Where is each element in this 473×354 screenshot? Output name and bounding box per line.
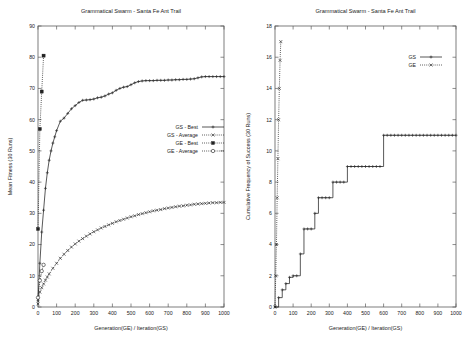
marker-plus xyxy=(182,78,185,81)
marker-cross xyxy=(103,225,106,228)
marker-plus xyxy=(212,126,215,129)
marker-plus xyxy=(144,79,147,82)
y-tick-label: 10 xyxy=(266,148,272,154)
marker-plus xyxy=(353,165,356,168)
marker-circle xyxy=(36,296,39,299)
marker-plus xyxy=(200,75,203,78)
marker-plus xyxy=(371,165,374,168)
marker-circle xyxy=(40,269,43,272)
figure-container: Grammatical Swarm - Santa Fe Ant Trail01… xyxy=(0,0,473,354)
x-tick-label: 200 xyxy=(307,310,316,316)
marker-plus xyxy=(411,134,414,137)
marker-plus xyxy=(426,134,429,137)
marker-plus xyxy=(440,134,443,137)
series-right-0 xyxy=(274,134,458,309)
y-tick-label: 16 xyxy=(266,54,272,60)
marker-plus xyxy=(422,134,425,137)
marker-cross xyxy=(170,206,173,209)
marker-cross xyxy=(167,207,170,210)
marker-plus xyxy=(447,134,450,137)
marker-plus xyxy=(100,96,103,99)
y-tick-label: 14 xyxy=(266,85,272,91)
x-tick-label: 300 xyxy=(89,310,98,316)
marker-cross xyxy=(40,286,43,289)
y-tick-label: 90 xyxy=(29,23,35,29)
marker-plus xyxy=(375,165,378,168)
marker-cross xyxy=(130,215,133,218)
x-tick-label: 900 xyxy=(434,310,443,316)
marker-cross xyxy=(42,282,45,285)
marker-cross xyxy=(107,223,110,226)
marker-plus xyxy=(360,165,363,168)
marker-cross xyxy=(51,267,54,270)
chart-panel-right: Grammatical Swarm - Santa Fe Ant Trail02… xyxy=(245,8,462,331)
marker-cross xyxy=(126,217,129,220)
x-tick-label: 900 xyxy=(201,310,210,316)
y-tick-label: 70 xyxy=(29,85,35,91)
legend-label: GE xyxy=(409,62,417,68)
marker-plus xyxy=(42,209,45,212)
marker-plus xyxy=(204,75,207,78)
marker-cross xyxy=(185,204,188,207)
marker-plus xyxy=(40,231,43,234)
marker-plus xyxy=(163,79,166,82)
marker-cross xyxy=(59,257,62,260)
marker-cross xyxy=(279,40,282,43)
marker-cross xyxy=(48,272,51,275)
legend-label: GS - Average xyxy=(167,132,198,138)
marker-plus xyxy=(44,187,47,190)
marker-plus xyxy=(444,134,447,137)
marker-circle xyxy=(38,279,41,282)
marker-plus xyxy=(159,79,162,82)
marker-plus xyxy=(288,276,291,279)
y-tick-label: 40 xyxy=(29,179,35,185)
marker-plus xyxy=(331,181,334,184)
marker-plus xyxy=(284,282,287,285)
marker-plus xyxy=(317,196,320,199)
chart-title-right: Grammatical Swarm - Santa Fe Ant Trail xyxy=(315,8,415,14)
marker-plus xyxy=(118,87,121,90)
legend-right: GSGE xyxy=(409,54,443,68)
x-tick-label: 500 xyxy=(361,310,370,316)
marker-cross xyxy=(156,209,159,212)
marker-cross xyxy=(200,202,203,205)
x-tick-label: 0 xyxy=(37,310,40,316)
series-left-0 xyxy=(37,75,226,302)
x-tick-label: 400 xyxy=(108,310,117,316)
marker-square xyxy=(36,227,39,230)
marker-plus xyxy=(313,212,316,215)
marker-square xyxy=(211,141,214,144)
marker-square xyxy=(42,54,45,57)
marker-plus xyxy=(418,134,421,137)
x-tick-label: 700 xyxy=(164,310,173,316)
marker-plus xyxy=(223,75,226,78)
y-tick-label: 60 xyxy=(29,117,35,123)
marker-plus xyxy=(189,78,192,81)
marker-cross xyxy=(55,262,58,265)
marker-plus xyxy=(51,142,54,145)
y-tick-label: 0 xyxy=(32,304,35,310)
marker-plus xyxy=(292,274,295,277)
marker-cross xyxy=(85,235,88,238)
marker-cross xyxy=(430,64,433,67)
y-tick-label: 10 xyxy=(29,273,35,279)
y-tick-label: 4 xyxy=(269,241,272,247)
marker-plus xyxy=(407,134,410,137)
marker-cross xyxy=(208,202,211,205)
marker-plus xyxy=(126,85,129,88)
marker-plus xyxy=(350,165,353,168)
marker-cross xyxy=(44,279,47,282)
y-axis-label-left: Mean Fitness (30 Runs) xyxy=(7,138,13,196)
x-tick-label: 0 xyxy=(274,310,277,316)
legend-label: GS - Best xyxy=(176,124,199,130)
marker-plus xyxy=(451,134,454,137)
marker-cross xyxy=(111,222,114,225)
y-tick-label: 12 xyxy=(266,117,272,123)
x-tick-label: 200 xyxy=(71,310,80,316)
series-path xyxy=(38,77,224,301)
plots-svg: Grammatical Swarm - Santa Fe Ant Trail01… xyxy=(0,0,473,354)
marker-plus xyxy=(174,78,177,81)
marker-plus xyxy=(122,86,125,89)
marker-plus xyxy=(328,196,331,199)
marker-plus xyxy=(53,135,56,138)
